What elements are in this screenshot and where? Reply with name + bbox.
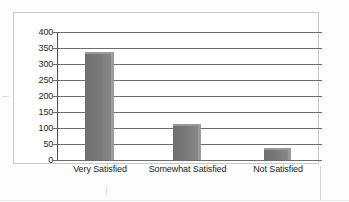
y-tick-label-200: 200 <box>27 92 53 101</box>
y-tick-label-50: 50 <box>27 140 53 149</box>
x-label-not-satisfied: Not Satisfied <box>234 164 322 175</box>
bar-top-highlight <box>173 124 201 126</box>
y-tick-label-250: 250 <box>27 76 53 85</box>
x-label-very-satisfied: Very Satisfied <box>56 164 144 175</box>
x-axis-category-labels: Very Satisfied Somewhat Satisfied Not Sa… <box>57 164 322 178</box>
y-axis-tick-labels: 400 350 300 250 200 150 100 50 0 <box>27 32 53 161</box>
scan-artifact-bottom-edge <box>0 200 349 201</box>
plot-area <box>57 32 322 160</box>
y-tick-label-400: 400 <box>27 28 53 37</box>
x-label-somewhat-satisfied: Somewhat Satisfied <box>143 164 232 175</box>
gridline-0-baseline <box>57 160 322 161</box>
bar-top-highlight <box>85 52 114 54</box>
bar-side-highlight <box>288 148 291 160</box>
y-tick-mark-0 <box>53 160 58 161</box>
bar-side-highlight <box>198 124 201 160</box>
bar-series <box>57 32 322 160</box>
y-tick-label-300: 300 <box>27 60 53 69</box>
y-tick-label-350: 350 <box>27 44 53 53</box>
y-tick-label-150: 150 <box>27 108 53 117</box>
y-tick-label-0: 0 <box>27 156 53 165</box>
bar-side-highlight <box>111 52 114 160</box>
bar-somewhat-satisfied[interactable] <box>173 124 201 160</box>
scan-artifact-left-mark <box>2 96 9 97</box>
bar-top-highlight <box>264 148 291 150</box>
bar-very-satisfied[interactable] <box>85 52 114 160</box>
bar-chart-figure: 400 350 300 250 200 150 100 50 0 <box>0 0 349 202</box>
y-tick-label-100: 100 <box>27 124 53 133</box>
bar-not-satisfied[interactable] <box>264 148 291 160</box>
scan-artifact-bottom-tick <box>106 186 107 195</box>
